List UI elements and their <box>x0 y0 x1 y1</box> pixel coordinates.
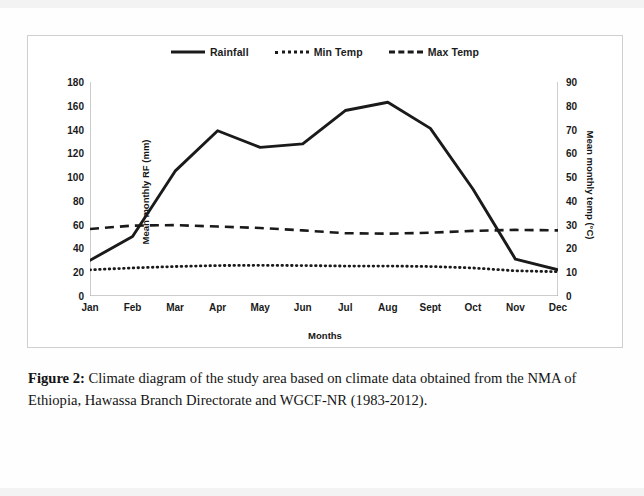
x-axis-tick-label: Sept <box>420 302 442 313</box>
y-axis-right-tick-label: 60 <box>566 148 577 159</box>
y-axis-left-tick-label: 20 <box>73 267 84 278</box>
x-axis-tick-label: Jul <box>338 302 352 313</box>
y-axis-left-tick-label: 80 <box>73 195 84 206</box>
y-axis-left-tick-label: 160 <box>67 100 84 111</box>
x-axis-tick-label: Feb <box>124 302 142 313</box>
y-axis-left-tick-label: 60 <box>73 219 84 230</box>
plot-area <box>90 82 558 296</box>
x-axis-tick-label: Dec <box>549 302 567 313</box>
x-axis-tick-label: Jan <box>81 302 98 313</box>
climate-chart-panel: Rainfall Min Temp Max Temp Mean monthly … <box>27 35 623 348</box>
x-axis-tick-label: Nov <box>506 302 525 313</box>
series-line-rainfall <box>90 102 558 270</box>
x-axis-tick-label: Jun <box>294 302 312 313</box>
page-bottom-edge <box>0 488 644 496</box>
y-axis-right-tick-label: 90 <box>566 77 577 88</box>
y-axis-left-tick-label: 0 <box>78 291 84 302</box>
x-axis-tick-label: Apr <box>209 302 226 313</box>
legend-item-rainfall: Rainfall <box>171 46 249 58</box>
x-axis-tick-label: Oct <box>465 302 482 313</box>
y-axis-left-ticks: 020406080100120140160180 <box>50 82 88 296</box>
x-axis-tick-label: May <box>250 302 269 313</box>
legend-label-rainfall: Rainfall <box>210 46 249 58</box>
y-axis-right-tick-label: 80 <box>566 100 577 111</box>
series-line-min-temp <box>90 265 558 271</box>
y-axis-right-tick-label: 70 <box>566 124 577 135</box>
y-axis-right-tick-label: 20 <box>566 243 577 254</box>
x-axis-tick-label: Mar <box>166 302 184 313</box>
page-top-edge <box>0 0 644 8</box>
figure-caption-text: Climate diagram of the study area based … <box>28 370 576 408</box>
y-axis-left-tick-label: 180 <box>67 77 84 88</box>
figure-caption-label: Figure 2: <box>28 370 85 386</box>
y-axis-right-tick-label: 40 <box>566 195 577 206</box>
y-axis-left-tick-label: 40 <box>73 243 84 254</box>
y-axis-left-tick-label: 120 <box>67 148 84 159</box>
y-axis-right-ticks: 0102030405060708090 <box>562 82 592 296</box>
y-axis-left-tick-label: 140 <box>67 124 84 135</box>
legend-swatch-max-temp-icon <box>389 47 423 57</box>
x-axis-tick-label: Aug <box>378 302 397 313</box>
x-axis-title: Months <box>28 330 622 341</box>
legend-swatch-rainfall-icon <box>171 47 205 57</box>
y-axis-right-tick-label: 50 <box>566 172 577 183</box>
figure-caption: Figure 2: Climate diagram of the study a… <box>28 368 620 411</box>
chart-legend: Rainfall Min Temp Max Temp <box>28 46 622 58</box>
y-axis-left-tick-label: 100 <box>67 172 84 183</box>
y-axis-right-tick-label: 10 <box>566 267 577 278</box>
legend-swatch-min-temp-icon <box>275 47 309 57</box>
legend-item-max-temp: Max Temp <box>389 46 479 58</box>
series-line-max-temp <box>90 225 558 234</box>
y-axis-right-tick-label: 30 <box>566 219 577 230</box>
figure-page: Rainfall Min Temp Max Temp Mean monthly … <box>0 0 644 496</box>
legend-label-max-temp: Max Temp <box>428 46 479 58</box>
x-axis-ticks: JanFebMarAprMayJunJulAugSeptOctNovDec <box>90 302 558 318</box>
legend-label-min-temp: Min Temp <box>314 46 363 58</box>
tick-marks <box>90 82 558 296</box>
y-axis-right-tick-label: 0 <box>566 291 572 302</box>
legend-item-min-temp: Min Temp <box>275 46 363 58</box>
axis-lines <box>90 82 558 296</box>
plot-svg <box>90 82 558 296</box>
